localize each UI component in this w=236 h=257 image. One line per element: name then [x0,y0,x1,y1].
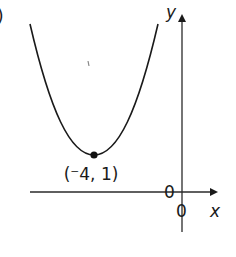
stray-mark [88,61,89,66]
graph-canvas: ) (⁻4, 1) y x 0 0 [0,0,236,257]
origin-label-below: 0 [176,201,187,221]
part-marker: ) [0,6,4,26]
vertex-label: (⁻4, 1) [64,164,119,184]
parabola-curve [30,24,158,155]
vertex-point [90,151,97,158]
x-axis-label: x [209,201,221,221]
y-axis-label: y [165,2,177,22]
origin-label-left: 0 [164,182,175,202]
